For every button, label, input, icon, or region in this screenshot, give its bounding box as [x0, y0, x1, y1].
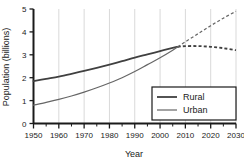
- y-tick-label: 4: [22, 28, 27, 37]
- x-tick-label: 2020: [202, 131, 220, 140]
- population-line-chart: 195019601970198019902000201020202030 012…: [0, 0, 244, 162]
- x-tick-label: 2000: [151, 131, 169, 140]
- x-tick-label: 1980: [101, 131, 119, 140]
- y-axis-title: Population (billions): [1, 28, 11, 107]
- chart-legend[interactable]: Rural Urban: [152, 87, 236, 120]
- legend-label-rural: Rural: [183, 92, 205, 102]
- x-tick-label: 1970: [75, 131, 93, 140]
- legend-label-urban: Urban: [183, 105, 208, 115]
- y-tick-label: 3: [22, 51, 27, 60]
- x-tick-label: 2010: [176, 131, 194, 140]
- y-tick-label: 1: [22, 97, 27, 106]
- x-axis-title: Year: [125, 149, 143, 159]
- x-tick-label: 1960: [50, 131, 68, 140]
- x-tick-label: 1990: [126, 131, 144, 140]
- chart-canvas: 195019601970198019902000201020202030 012…: [0, 0, 244, 162]
- y-tick-label: 5: [22, 5, 27, 14]
- x-tick-label: 2030: [227, 131, 244, 140]
- x-axis-tick-labels: 195019601970198019902000201020202030: [25, 131, 244, 140]
- y-tick-label: 0: [22, 120, 27, 129]
- x-tick-label: 1950: [25, 131, 43, 140]
- y-tick-label: 2: [22, 74, 27, 83]
